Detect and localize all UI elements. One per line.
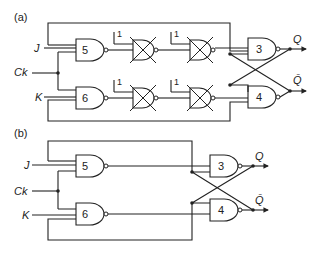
svg-text:1: 1 [174,77,179,87]
input-j-label-b: J [23,159,30,171]
nand-gate-5-b [76,155,104,177]
nand-gate-6 [76,87,104,109]
panel-a: (a) J Ck K 5 6 1 [14,11,306,121]
svg-text:6: 6 [82,208,88,220]
input-ck-label: Ck [14,66,28,78]
output-qbar-label-b: Q̄ [255,194,264,206]
svg-text:3: 3 [218,160,224,172]
output-qbar-label-a: Q̄ [293,74,302,86]
gate5-bubble [104,48,108,52]
output-q-label-a: Q [293,33,302,45]
input-ck-label-b: Ck [14,185,28,197]
panel-b-label: (b) [14,127,27,139]
svg-text:4: 4 [256,91,262,103]
crossed-gate-2: 1 [158,29,248,63]
crossed-gate-3: 1 [108,77,158,111]
svg-text:6: 6 [82,92,88,104]
input-k-label-b: K [22,209,30,221]
output-q-label-b: Q [255,150,264,162]
svg-text:1: 1 [117,29,122,39]
nand-gate-6-b [76,203,104,225]
nand-gate-5 [76,39,104,61]
svg-text:4: 4 [218,204,224,216]
svg-text:1: 1 [117,77,122,87]
input-k-label: K [35,91,43,103]
panel-b: (b) J Ck K 5 6 3 4 Q Q̄ [14,127,268,240]
svg-text:5: 5 [82,44,88,56]
svg-text:1: 1 [174,29,179,39]
ck-junction-dot [56,71,60,75]
svg-text:5: 5 [82,160,88,172]
gate6-bubble [104,96,108,100]
circuit-diagram: (a) J Ck K 5 6 1 [0,0,318,253]
input-j-label: J [33,42,40,54]
panel-a-label: (a) [14,11,27,23]
svg-text:3: 3 [256,43,262,55]
crossed-gate-1: 1 [108,29,158,63]
